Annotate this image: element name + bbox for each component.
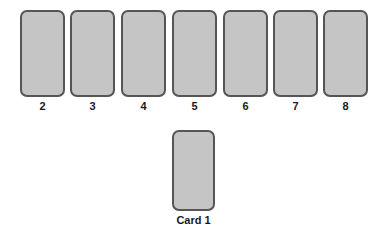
card-slot-8[interactable]: [323, 10, 368, 97]
card-slot-label-2: 2: [20, 100, 65, 113]
card-slot-6[interactable]: [223, 10, 268, 97]
card-slot-7[interactable]: [273, 10, 318, 97]
card-slot-3[interactable]: [70, 10, 115, 97]
card-slot-5[interactable]: [172, 10, 217, 97]
selected-card[interactable]: [172, 130, 215, 211]
card-slot-label-8: 8: [323, 100, 368, 113]
card-slot-label-3: 3: [70, 100, 115, 113]
selected-card-label: Card 1: [160, 214, 227, 227]
card-slot-label-6: 6: [223, 100, 268, 113]
card-slot-label-7: 7: [273, 100, 318, 113]
card-slot-2[interactable]: [20, 10, 65, 97]
card-slot-label-4: 4: [121, 100, 166, 113]
card-slot-label-5: 5: [172, 100, 217, 113]
card-slot-4[interactable]: [121, 10, 166, 97]
card-layout-canvas: 2 3 4 5 6 7 8 Card 1: [0, 0, 387, 238]
